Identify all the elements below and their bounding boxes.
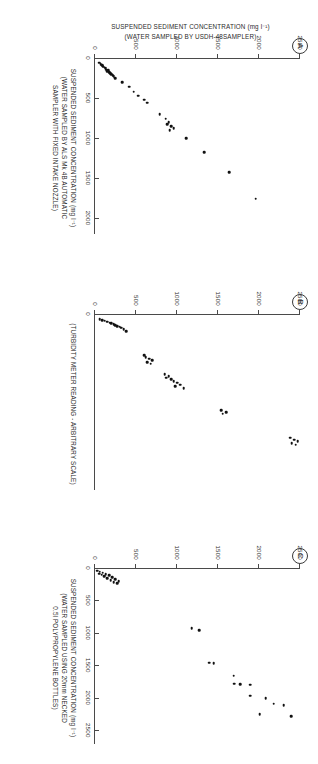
panel-c-x-title-line2: (WATER SAMPLED USING 20mm NECKED: [60, 568, 69, 748]
panel-b-y-tick: [176, 310, 177, 314]
data-point: [148, 357, 151, 360]
panel-a-y-tick: [217, 54, 218, 58]
panel-a-x-tick-label: 500: [85, 93, 92, 104]
data-point: [220, 409, 223, 412]
shared-y-axis-title: SUSPENDED SEDIMENT CONCENTRATION (mg l⁻¹…: [76, 22, 306, 41]
panel-c-x-tick-label: 1500: [85, 658, 92, 673]
figure-container: A SUSPENDED SEDIMENT CONCENTRATION (mg l…: [0, 0, 318, 764]
data-point: [228, 171, 231, 174]
data-point: [172, 127, 175, 130]
panel-a-x-tick: [95, 178, 99, 179]
data-point: [179, 383, 182, 386]
panel-c-y-tick-label: 2000: [256, 534, 263, 560]
panel-c-x-tick: [95, 633, 99, 634]
panel-c-y-tick-label: 2500: [297, 534, 304, 560]
data-point: [114, 77, 117, 80]
data-point: [272, 702, 275, 705]
panel-c-y-tick-label: 0: [92, 534, 99, 560]
panel-c-x-title-line1: SUSPENDED SEDIMENT CONCENTRATION (mg l⁻¹…: [69, 568, 78, 748]
y-title-line1: SUSPENDED SEDIMENT CONCENTRATION (mg l⁻¹…: [76, 22, 306, 32]
data-point: [121, 81, 124, 84]
panel-a-x-tick: [95, 218, 99, 219]
data-point: [116, 582, 119, 585]
panel-a-y-tick: [176, 54, 177, 58]
data-point: [264, 697, 267, 700]
data-point: [125, 330, 128, 333]
data-point: [113, 581, 116, 584]
panel-b-x-title-line1: (TURBIDITY METER READING - ARBITRARY SCA…: [69, 314, 78, 494]
panel-c-y-tick: [94, 564, 95, 568]
data-point: [295, 443, 298, 446]
data-point: [168, 375, 171, 378]
data-point: [128, 86, 131, 89]
panel-c-x-tick-label: 500: [85, 595, 92, 606]
data-point: [249, 684, 252, 687]
panel-b-y-tick-label: 2500: [297, 280, 304, 306]
data-point: [239, 683, 242, 686]
panel-a-y-tick-label: 1500: [215, 24, 222, 50]
panel-b-plot-area: [95, 314, 300, 486]
panel-c-y-tick: [176, 564, 177, 568]
data-point: [296, 440, 299, 443]
panel-c-x-tick: [95, 730, 99, 731]
panel-b-y-tick: [94, 310, 95, 314]
panel-a-y-tick: [135, 54, 136, 58]
panel-b-y-tick-label: 2000: [256, 280, 263, 306]
panel-a-y-tick-label: 2500: [297, 24, 304, 50]
panel-a-x-tick: [95, 138, 99, 139]
data-point: [208, 661, 211, 664]
panel-c-x-tick: [95, 665, 99, 666]
panel-a: A SUSPENDED SEDIMENT CONCENTRATION (mg l…: [0, 0, 318, 256]
data-point: [198, 629, 201, 632]
data-point: [163, 373, 166, 376]
data-point: [166, 123, 169, 126]
y-title-line2: (WATER SAMPLED BY USDH-48SAMPLER): [76, 31, 306, 41]
data-point: [185, 137, 188, 140]
panel-a-x-axis-title: SUSPENDED SEDIMENT CONCENTRATION (mg l⁻¹…: [51, 58, 78, 238]
panel-a-y-tick-label: 1000: [174, 24, 181, 50]
panel-c-x-tick-label: 1000: [85, 626, 92, 641]
data-point: [109, 579, 112, 582]
panel-a-x-tick-label: 1000: [85, 131, 92, 146]
data-point: [289, 437, 292, 440]
data-point: [151, 359, 154, 362]
panel-b-x-tick: [95, 314, 99, 315]
data-point: [291, 442, 294, 445]
data-point: [146, 361, 149, 364]
data-point: [174, 385, 177, 388]
panel-b-y-tick: [217, 310, 218, 314]
data-point: [190, 627, 193, 630]
data-point: [146, 102, 149, 105]
panel-a-x-title-line3: SAMPLER WITH FIXED INTAKE NOZZLE): [51, 58, 60, 238]
data-point: [103, 575, 106, 578]
panel-a-y-tick: [258, 54, 259, 58]
data-point: [232, 674, 235, 677]
panel-a-x-tick-label: 0: [85, 56, 92, 60]
panel-c-x-tick: [95, 698, 99, 699]
panel-a-y-tick: [299, 54, 300, 58]
panel-a-x-title-line1: SUSPENDED SEDIMENT CONCENTRATION (mg l⁻¹…: [69, 58, 78, 238]
data-point: [137, 94, 140, 97]
data-point: [106, 577, 109, 580]
panel-b-y-tick: [135, 310, 136, 314]
data-point: [259, 713, 262, 716]
panel-a-x-tick: [95, 58, 99, 59]
data-point: [172, 380, 175, 383]
data-point: [168, 129, 171, 132]
panel-c-x-tick-label: 0: [85, 566, 92, 570]
panel-c-y-tick: [299, 564, 300, 568]
panel-a-x-tick-label: 2000: [85, 211, 92, 226]
panel-a-x-tick-label: 1500: [85, 171, 92, 186]
data-point: [149, 363, 152, 366]
panel-c-x-axis-title: SUSPENDED SEDIMENT CONCENTRATION (mg l⁻¹…: [51, 568, 78, 748]
data-point: [282, 704, 285, 707]
panel-b: B (TURBIDITY METER READING - ARBITRARY S…: [0, 256, 318, 510]
panel-c-x-tick: [95, 600, 99, 601]
panel-c-x-tick: [95, 568, 99, 569]
panel-a-x-title-line2: (WATER SAMPLED BY ALS Mk 4B AUTOMATIC: [60, 58, 69, 238]
panel-a-y-tick-label: 2000: [256, 24, 263, 50]
data-point: [145, 356, 148, 359]
data-point: [143, 98, 146, 101]
panel-c-plot-area: [95, 568, 300, 740]
panel-c-x-tick-label: 2500: [85, 723, 92, 738]
